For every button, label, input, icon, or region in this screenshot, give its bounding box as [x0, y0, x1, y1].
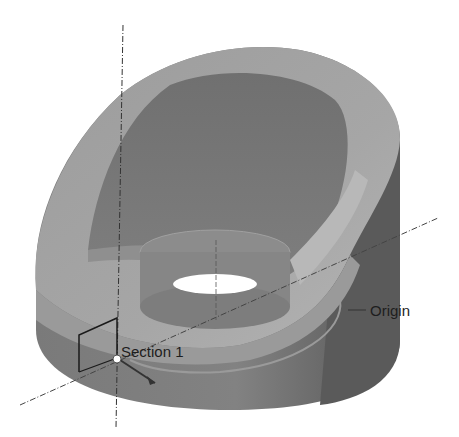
inner-bore: [140, 230, 290, 329]
origin-label: Origin: [370, 302, 410, 319]
section-point: [113, 355, 121, 363]
cad-model-view: [0, 0, 459, 437]
section-label: Section 1: [121, 343, 184, 360]
through-hole: [173, 274, 257, 294]
